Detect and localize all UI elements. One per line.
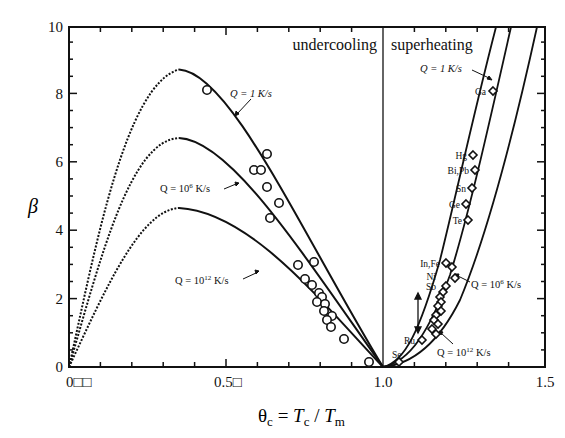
annotation-q12-right: Q = 1012 K/s xyxy=(437,346,490,358)
y-tick-2: 2 xyxy=(56,291,64,307)
y-tick-6: 6 xyxy=(56,154,64,170)
beta-vs-theta-chart: 0 2 4 6 8 10 0□□ 0.5□ 1.0 1.5 β θc = Tc … xyxy=(0,0,565,438)
element-label-te: Te xyxy=(453,216,462,226)
curve-q6-dotted xyxy=(69,138,179,367)
undercooling-curves xyxy=(69,70,383,368)
y-tick-0: 0 xyxy=(56,359,64,375)
element-label-sb: Sb xyxy=(426,282,436,292)
element-label-ru: Ru xyxy=(404,336,415,346)
y-axis-ticks-right xyxy=(537,42,545,350)
x-tick-0: 0□□ xyxy=(66,374,92,390)
x-axis-ticks-top xyxy=(100,27,508,35)
x-tick-15: 1.5 xyxy=(536,374,555,390)
curve-q1-dotted xyxy=(69,70,179,368)
superheating-label: superheating xyxy=(391,36,473,54)
y-tick-10: 10 xyxy=(48,19,63,35)
element-label-ga: Ga xyxy=(475,87,487,97)
superheating-curves xyxy=(383,27,537,367)
element-label-ge: Ge xyxy=(449,200,460,210)
y-axis-ticks xyxy=(69,27,77,367)
annotation-q12-left: Q = 1012 K/s xyxy=(175,274,228,286)
annotation-q1-left: Q = 1 K/s xyxy=(230,88,272,99)
element-label-sn: Sn xyxy=(456,184,466,194)
x-tick-05: 0.5□ xyxy=(214,374,242,390)
element-label-se: Se xyxy=(392,350,402,360)
curve-q6-superheat xyxy=(383,27,511,367)
annotation-q6-left: Q = 106 K/s xyxy=(160,182,210,194)
element-label-ni: Ni xyxy=(427,272,437,282)
undercooling-label: undercooling xyxy=(293,36,377,54)
x-axis-ticks xyxy=(100,359,508,367)
x-tick-10: 1.0 xyxy=(374,374,393,390)
element-label-hg: Hg xyxy=(455,151,467,161)
range-arrow xyxy=(415,293,421,333)
annotation-q6-right: Q = 106 K/s xyxy=(471,278,521,290)
y-tick-8: 8 xyxy=(56,86,64,102)
curve-q12-solid xyxy=(179,208,383,367)
y-tick-4: 4 xyxy=(56,222,64,238)
element-label-infe: In,Fe xyxy=(420,259,440,269)
undercooling-data-points xyxy=(203,86,373,366)
y-axis-label: β xyxy=(27,195,38,218)
plot-frame xyxy=(69,27,545,367)
curve-q12-superheat xyxy=(383,27,537,367)
curve-q12-dotted xyxy=(69,208,179,367)
element-label-bipb: Bi,Pb xyxy=(448,166,470,176)
annotation-q1-right: Q = 1 K/s xyxy=(420,63,462,74)
x-axis-label: θc = Tc / Tm xyxy=(258,405,345,429)
